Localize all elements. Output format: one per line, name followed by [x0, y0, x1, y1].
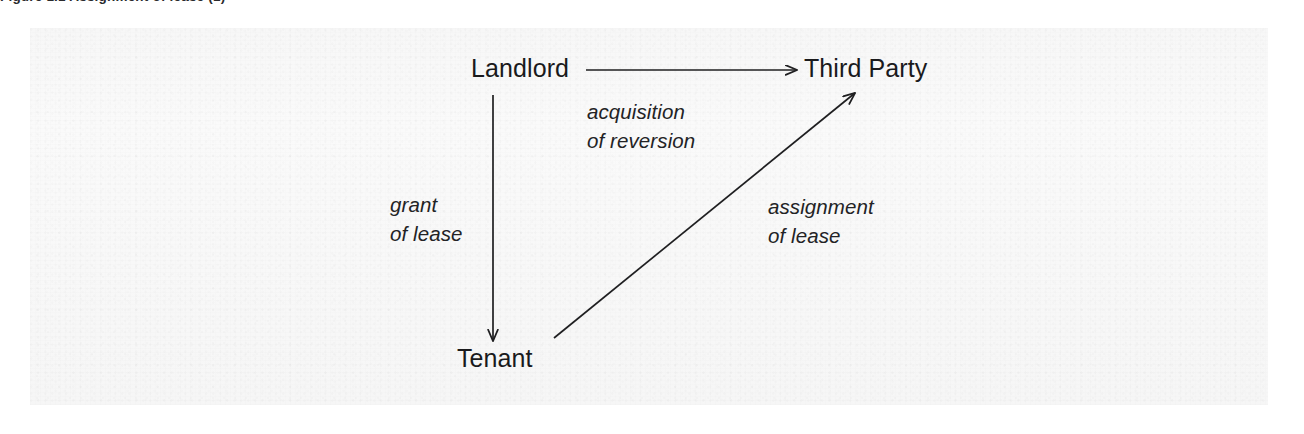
edge-label-line-2: of lease: [390, 219, 463, 248]
edge-label-line-1: grant: [390, 190, 463, 219]
edge-label-line-2: of reversion: [587, 126, 695, 155]
scan-grain-overlay: [30, 28, 1268, 405]
edge-label-line-1: acquisition: [587, 97, 695, 126]
node-landlord: Landlord: [471, 56, 569, 81]
figure-caption-cropped: Figure 1.1 Assignment of lease (1): [0, 0, 420, 5]
edge-label-line-1: assignment: [768, 192, 874, 221]
edge-label-grant-of-lease: grant of lease: [390, 190, 463, 248]
edge-label-line-2: of lease: [768, 221, 874, 250]
edge-label-assignment-of-lease: assignment of lease: [768, 192, 874, 250]
node-tenant: Tenant: [457, 346, 533, 371]
node-third-party: Third Party: [804, 56, 927, 81]
figure-panel: [30, 28, 1268, 405]
edge-label-acquisition-of-reversion: acquisition of reversion: [587, 97, 695, 155]
